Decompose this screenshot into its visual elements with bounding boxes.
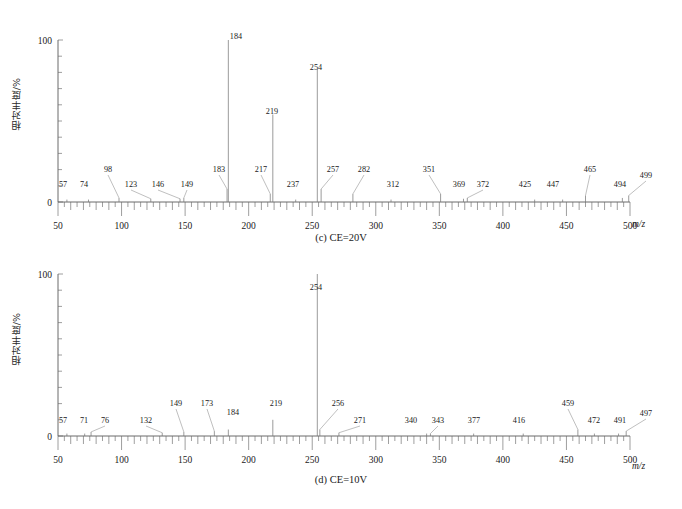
peak-group: 123 xyxy=(125,180,151,202)
peak-leader-line xyxy=(91,426,105,432)
peak-group: 459 xyxy=(562,399,578,436)
x-tick-label: 150 xyxy=(178,221,193,231)
x-tick-label: 200 xyxy=(242,221,257,231)
x-tick-label: 250 xyxy=(305,455,320,465)
mass-spectrum-plot-d: 0100501001502002503003504004505005771761… xyxy=(0,251,682,491)
peak-leader-line xyxy=(568,409,578,430)
peak-group: 57 xyxy=(59,416,67,436)
peak-label: 57 xyxy=(59,416,67,425)
peak-leader-line xyxy=(261,175,270,194)
peak-leader-line xyxy=(146,426,162,433)
x-tick-label: 100 xyxy=(114,221,129,231)
peak-leader-line xyxy=(131,190,151,199)
peak-group: 132 xyxy=(140,416,162,436)
peak-group: 76 xyxy=(91,416,109,436)
peak-leader-line xyxy=(430,426,438,434)
peak-label: 123 xyxy=(125,180,137,189)
peak-group: 257 xyxy=(321,165,339,202)
peak-leader-line xyxy=(586,175,590,196)
peak-label: 173 xyxy=(201,399,213,408)
peak-group: 340 xyxy=(405,416,427,436)
x-tick-label: 100 xyxy=(114,455,129,465)
peak-label: 257 xyxy=(327,165,339,174)
x-tick-label: 50 xyxy=(53,455,63,465)
peak-label: 472 xyxy=(588,416,600,425)
peak-label: 184 xyxy=(230,32,242,41)
peak-label: 219 xyxy=(266,107,278,116)
peak-group: 282 xyxy=(353,165,370,202)
peak-label: 494 xyxy=(614,180,626,189)
peak-label: 184 xyxy=(227,408,239,417)
x-tick-label: 200 xyxy=(242,455,257,465)
peak-label: 74 xyxy=(80,180,88,189)
peak-label: 71 xyxy=(80,416,88,425)
x-tick-label: 300 xyxy=(369,221,384,231)
peak-label: 98 xyxy=(104,165,112,174)
peak-label: 312 xyxy=(387,180,399,189)
peak-group: 149 xyxy=(170,399,184,436)
mass-spectrum-plot-c: 0100501001502002503003504004505005774981… xyxy=(0,0,682,240)
peak-label: 343 xyxy=(432,416,444,425)
peak-group: 369 xyxy=(453,180,465,202)
y-tick-label: 100 xyxy=(38,36,53,46)
spectrum-panel-c: 相对丰度/% 010050100150200250300350400450500… xyxy=(0,0,682,258)
peak-label: 369 xyxy=(453,180,465,189)
peak-label: 149 xyxy=(170,399,182,408)
peak-label: 57 xyxy=(59,180,67,189)
peak-group: 74 xyxy=(80,180,89,202)
x-tick-label: 350 xyxy=(432,455,447,465)
peak-label: 499 xyxy=(640,171,652,180)
peak-label: 132 xyxy=(140,416,152,425)
peak-leader-line xyxy=(626,419,646,431)
panel-caption-c: (c) CE=20V xyxy=(0,232,682,243)
peak-group: 425 xyxy=(519,180,535,202)
x-tick-label: 400 xyxy=(496,221,511,231)
peak-leader-line xyxy=(321,175,333,189)
x-tick-label: 300 xyxy=(369,455,384,465)
peak-label: 416 xyxy=(513,416,525,425)
peak-group: 499 xyxy=(629,171,652,202)
panel-caption-d: (d) CE=10V xyxy=(0,474,682,485)
peak-group: 271 xyxy=(339,416,366,436)
peak-label: 377 xyxy=(468,416,480,425)
peak-label: 447 xyxy=(547,180,559,189)
peak-group: 217 xyxy=(255,165,270,202)
peak-leader-line xyxy=(353,175,364,194)
peak-group: 184 xyxy=(228,32,242,202)
peak-group: 491 xyxy=(614,416,626,436)
peak-label: 256 xyxy=(332,399,344,408)
peak-group: 57 xyxy=(59,180,67,202)
peak-label: 271 xyxy=(354,416,366,425)
peak-leader-line xyxy=(429,175,441,194)
peak-group: 173 xyxy=(201,399,214,436)
x-axis-label-d: m/z xyxy=(632,461,645,471)
peak-leader-line xyxy=(158,190,180,199)
spectrum-panel-d: 相对丰度/% 010050100150200250300350400450500… xyxy=(0,251,682,509)
peak-label: 372 xyxy=(477,180,489,189)
peak-leader-line xyxy=(176,409,184,432)
peak-label: 217 xyxy=(255,165,267,174)
peak-label: 254 xyxy=(310,283,322,292)
peak-leader-line xyxy=(339,426,360,433)
peak-group: 254 xyxy=(310,63,322,202)
peak-label: 282 xyxy=(358,165,370,174)
x-tick-label: 150 xyxy=(178,455,193,465)
peak-group: 237 xyxy=(287,180,299,202)
x-tick-label: 450 xyxy=(559,221,574,231)
peak-group: 447 xyxy=(547,180,563,202)
peak-group: 149 xyxy=(181,180,193,202)
x-axis-label-c: m/z xyxy=(632,219,645,229)
peak-label: 491 xyxy=(614,416,626,425)
peak-group: 497 xyxy=(626,409,652,436)
peak-group: 219 xyxy=(266,107,278,202)
peak-label: 351 xyxy=(423,165,435,174)
peak-group: 465 xyxy=(584,165,596,202)
peak-label: 254 xyxy=(310,63,322,72)
y-tick-label: 0 xyxy=(47,198,52,208)
figure-page: 相对丰度/% 010050100150200250300350400450500… xyxy=(0,0,682,509)
peak-group: 183 xyxy=(213,165,227,202)
peak-label: 425 xyxy=(519,180,531,189)
x-tick-label: 50 xyxy=(53,221,63,231)
peak-group: 219 xyxy=(270,399,282,436)
x-tick-label: 250 xyxy=(305,221,320,231)
